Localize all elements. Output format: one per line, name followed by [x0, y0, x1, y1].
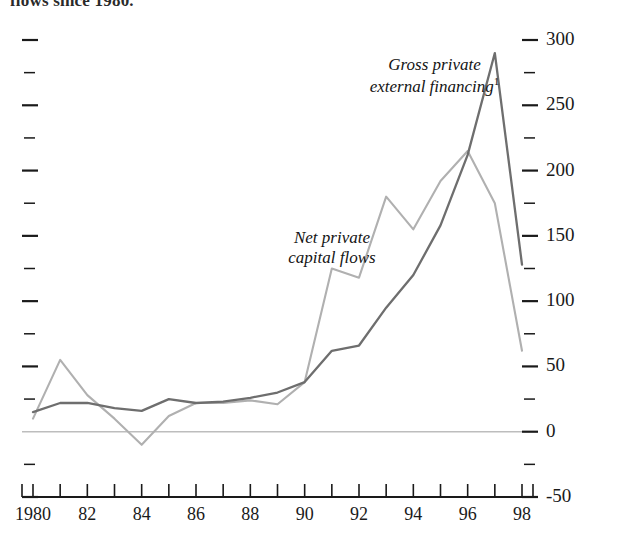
y-axis-tick-label: 150 [546, 224, 606, 246]
x-axis-tick-label: 90 [275, 504, 335, 525]
annotation-line: external financing1 [352, 75, 517, 97]
x-axis-tick-label: 88 [220, 504, 280, 525]
annotation-gross-private-external-financing: Gross privateexternal financing1 [352, 55, 517, 97]
x-axis-tick-label: 82 [57, 504, 117, 525]
right-axis-ticks [522, 40, 538, 497]
y-axis-tick-label: 300 [546, 28, 606, 50]
annotation-line: capital flows [262, 248, 402, 268]
x-axis-tick-label: 96 [438, 504, 498, 525]
x-axis-tick-label: 98 [492, 504, 552, 525]
y-axis-tick-label: 250 [546, 93, 606, 115]
y-axis-tick-label: 0 [546, 420, 606, 442]
x-axis [22, 484, 533, 497]
x-axis-tick-label: 94 [383, 504, 443, 525]
line-chart-plot [0, 0, 635, 548]
annotation-line: Gross private [352, 55, 517, 75]
x-axis-tick-label: 86 [166, 504, 226, 525]
x-axis-tick-label: 84 [112, 504, 172, 525]
series-line-net-private-capital-flows [33, 151, 522, 445]
footnote-marker: 1 [494, 75, 500, 87]
y-axis-tick-label: 50 [546, 354, 606, 376]
x-axis-tick-label: 92 [329, 504, 389, 525]
figure-panel: flows since 1980. -50050100150200250300 … [0, 0, 635, 548]
left-axis-ticks [22, 40, 38, 497]
y-axis-tick-label: 100 [546, 289, 606, 311]
annotation-net-private-capital-flows: Net privatecapital flows [262, 228, 402, 268]
annotation-line: Net private [262, 228, 402, 248]
y-axis-tick-label: -50 [546, 485, 606, 507]
y-axis-tick-label: 200 [546, 159, 606, 181]
x-axis-tick-label: 1980 [3, 504, 63, 525]
